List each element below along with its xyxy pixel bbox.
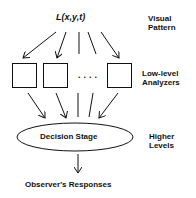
visual-pattern-line1: Visual	[148, 14, 176, 23]
decision-stage-label: Decision Stage	[40, 132, 97, 141]
observer-responses-label: Observer's Responses	[25, 180, 111, 189]
low-level-line1: Low-level	[142, 69, 180, 78]
analyzer-boxes	[13, 64, 132, 88]
analyzer-arrows	[28, 93, 118, 118]
higher-line1: Higher	[149, 132, 174, 141]
analyzer-ellipsis: ....	[78, 70, 100, 80]
low-level-line2: Analyzers	[142, 78, 180, 87]
low-level-label: Low-level Analyzers	[142, 69, 180, 87]
higher-line2: Levels	[149, 141, 174, 150]
higher-levels-label: Higher Levels	[149, 132, 174, 150]
visual-pattern-line2: Pattern	[148, 23, 176, 32]
visual-pattern-label: Visual Pattern	[148, 14, 176, 32]
input-formula: L(x,y,t)	[56, 12, 85, 22]
input-arrows	[23, 32, 119, 58]
